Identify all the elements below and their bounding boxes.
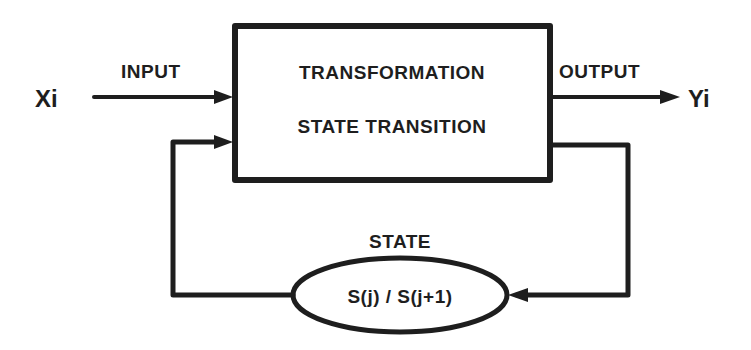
state-machine-diagram: TRANSFORMATION STATE TRANSITION Xi INPUT… <box>0 0 751 350</box>
arrowhead-icon <box>214 135 233 149</box>
arrowhead-icon <box>660 90 680 104</box>
input-label: INPUT <box>121 61 181 82</box>
input-variable-xi: Xi <box>35 85 58 112</box>
output-label: OUTPUT <box>559 61 640 82</box>
process-box <box>235 26 550 180</box>
output-arrow <box>553 90 680 104</box>
arrowhead-icon <box>508 288 528 302</box>
state-label: STATE <box>369 231 431 252</box>
feedback-to-state-arrow <box>508 145 628 302</box>
input-arrow <box>94 90 233 104</box>
output-variable-yi: Yi <box>688 85 710 112</box>
state-value: S(j) / S(j+1) <box>347 286 452 307</box>
state-transition-label: STATE TRANSITION <box>298 116 487 137</box>
arrowhead-icon <box>214 90 233 104</box>
transformation-label: TRANSFORMATION <box>299 62 485 83</box>
